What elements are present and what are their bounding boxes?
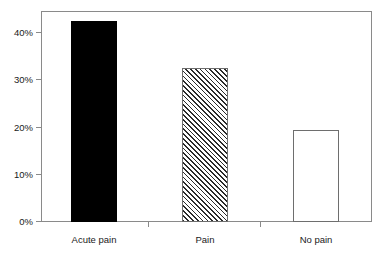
y-tick-mark xyxy=(36,127,41,128)
hatch-pattern xyxy=(183,69,227,221)
x-axis-label-no-pain: No pain xyxy=(276,233,356,246)
x-axis-label-acute-pain: Acute pain xyxy=(54,233,134,246)
y-tick-label: 30% xyxy=(14,73,33,86)
bar-acute-pain xyxy=(71,21,117,222)
bar-chart: 0% 10% 20% 30% 40% Acute pain Pain No pa… xyxy=(0,0,378,254)
y-tick-mark xyxy=(36,32,41,33)
y-tick-label: 20% xyxy=(14,121,33,134)
y-tick-label: 0% xyxy=(19,215,33,228)
bar-pain xyxy=(182,68,228,222)
bar-no-pain xyxy=(293,130,339,222)
y-tick-mark xyxy=(36,221,41,222)
x-axis-tick-boundary-1 xyxy=(148,222,149,227)
y-tick-label: 40% xyxy=(14,26,33,39)
y-tick-mark xyxy=(36,174,41,175)
x-axis-label-pain: Pain xyxy=(165,233,245,246)
y-tick-label: 10% xyxy=(14,168,33,181)
y-tick-mark xyxy=(36,79,41,80)
x-axis-tick-boundary-2 xyxy=(260,222,261,227)
